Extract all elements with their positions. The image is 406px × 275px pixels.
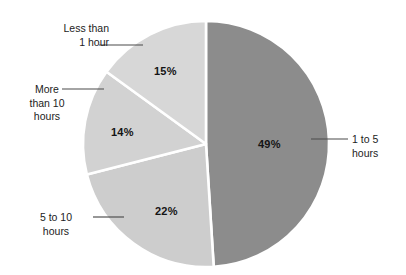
pie-category-label-5-to-10-hours-line-2: hours [23, 225, 89, 239]
pie-category-label-less-than-1-hour-line-2: 1 hour [26, 36, 109, 50]
pie-category-label-5-to-10-hours: 5 to 10 hours [23, 211, 89, 238]
pie-category-label-5-to-10-hours-line-1: 5 to 10 [23, 211, 89, 225]
pie-category-label-less-than-1-hour-line-1: Less than [26, 22, 109, 36]
pie-category-label-less-than-1-hour: Less than 1 hour [26, 22, 109, 49]
pie-value-label-more-than-10-hours: 14% [111, 127, 134, 138]
pie-category-label-more-than-10-hours-line-2: than 10 [14, 97, 80, 111]
pie-value-label-less-than-1-hour: 15% [154, 66, 177, 77]
pie-category-label-1-to-5-hours: 1 to 5 hours [352, 133, 378, 160]
pie-category-label-1-to-5-hours-line-2: hours [352, 147, 378, 161]
pie-category-label-more-than-10-hours: More than 10 hours [14, 83, 80, 124]
pie-category-label-more-than-10-hours-line-3: hours [14, 110, 80, 124]
pie-value-label-5-to-10-hours: 22% [155, 206, 178, 217]
pie-value-label-1-to-5-hours: 49% [258, 139, 281, 150]
pie-category-label-1-to-5-hours-line-1: 1 to 5 [352, 133, 378, 147]
pie-chart: 49% 22% 14% 15% 1 to 5 hours 5 to 10 hou… [0, 0, 406, 275]
pie-category-label-more-than-10-hours-line-1: More [14, 83, 80, 97]
